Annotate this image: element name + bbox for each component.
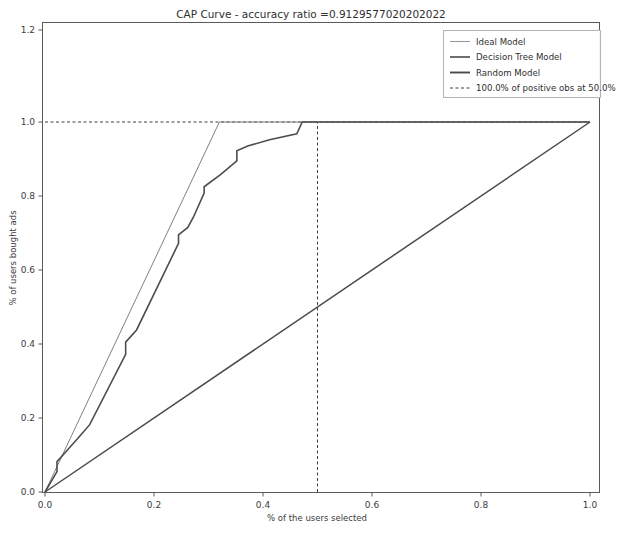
figure-canvas: CAP Curve - accuracy ratio =0.9129577020… bbox=[0, 0, 617, 533]
legend-label-decision-tree-model: Decision Tree Model bbox=[476, 52, 562, 62]
x-tick-label: 1.0 bbox=[583, 500, 598, 510]
x-axis-ticks: 0.0 0.2 0.4 0.6 0.8 1.0 bbox=[38, 493, 598, 511]
y-tick-label: 0.8 bbox=[21, 191, 36, 201]
cap-curve-chart: CAP Curve - accuracy ratio =0.9129577020… bbox=[0, 0, 617, 533]
x-tick-label: 0.8 bbox=[474, 500, 489, 510]
legend-label-random-model: Random Model bbox=[476, 68, 540, 78]
legend: Ideal Model Decision Tree Model Random M… bbox=[444, 31, 616, 98]
y-axis-title: % of users bought ads bbox=[8, 210, 18, 306]
y-tick-label: 0.0 bbox=[21, 487, 36, 497]
chart-title: CAP Curve - accuracy ratio =0.9129577020… bbox=[176, 8, 446, 20]
y-tick-label: 0.6 bbox=[21, 265, 36, 275]
x-axis-title: % of the users selected bbox=[267, 513, 367, 523]
y-tick-label: 0.2 bbox=[21, 413, 35, 423]
x-tick-label: 0.0 bbox=[38, 500, 53, 510]
y-axis-ticks: 1.2 1.0 0.8 0.6 0.4 0.2 0.0 bbox=[21, 25, 43, 497]
y-tick-label: 1.0 bbox=[21, 117, 36, 127]
x-tick-label: 0.6 bbox=[365, 500, 380, 510]
y-tick-label: 1.2 bbox=[21, 25, 35, 35]
y-tick-label: 0.4 bbox=[21, 339, 36, 349]
legend-label-positive-obs-marker: 100.0% of positive obs at 50.0% bbox=[476, 83, 616, 93]
legend-label-ideal-model: Ideal Model bbox=[476, 37, 525, 47]
data-series-group bbox=[45, 122, 590, 492]
x-tick-label: 0.2 bbox=[147, 500, 161, 510]
x-tick-label: 0.4 bbox=[256, 500, 271, 510]
